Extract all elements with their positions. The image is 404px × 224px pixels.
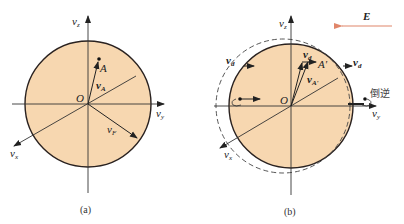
figure-a: vz vy vx O A vA vF (a) bbox=[10, 15, 165, 216]
point-A-prime-label: A' bbox=[317, 58, 328, 70]
point-A-dot bbox=[97, 57, 101, 61]
state-dot-right bbox=[363, 97, 367, 101]
caption-b: (b) bbox=[284, 206, 296, 218]
point-A-label: A bbox=[99, 62, 107, 74]
origin-label-b: O bbox=[280, 94, 288, 106]
axis-x-label-a: vx bbox=[10, 147, 19, 161]
umklapp-label: 倒逆 bbox=[370, 87, 390, 99]
vector-vd-right-label: vd bbox=[353, 56, 362, 70]
vector-vd-left-label: vd bbox=[226, 54, 235, 68]
field-E-label: E bbox=[362, 10, 370, 22]
axis-z-label-a: vz bbox=[72, 15, 80, 29]
diagram-canvas: vz vy vx O A vA vF (a) E bbox=[0, 0, 404, 224]
origin-label-a: O bbox=[76, 92, 84, 104]
figure-b: E vz vy vx O A' vd vd vd vA' 倒逆 (b) bbox=[214, 10, 392, 218]
axis-x-label-b: vx bbox=[224, 148, 233, 162]
caption-a: (a) bbox=[80, 204, 91, 216]
state-dot-left bbox=[238, 97, 242, 101]
axis-y-label-b: vy bbox=[372, 107, 381, 121]
axis-y-label-a: vy bbox=[156, 107, 165, 121]
axis-z-label-b: vz bbox=[279, 17, 287, 31]
